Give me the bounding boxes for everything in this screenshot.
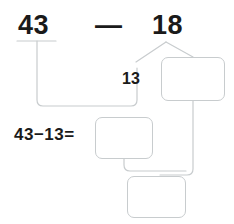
decomposed-part-left: 13 bbox=[122, 71, 140, 87]
split-branch-right bbox=[166, 42, 193, 57]
answer-box-bottom[interactable] bbox=[127, 176, 186, 218]
subtrahend-value: 18 bbox=[152, 12, 183, 39]
minus-operator-icon: — bbox=[95, 12, 123, 39]
wire-right-box-to-bottom bbox=[160, 101, 193, 175]
minuend-value: 43 bbox=[18, 12, 49, 39]
worksheet-canvas: 43 — 18 13 43−13= bbox=[0, 0, 234, 224]
answer-box-part-right[interactable] bbox=[161, 57, 225, 101]
answer-box-middle[interactable] bbox=[95, 117, 153, 159]
wire-middle-box-down bbox=[124, 159, 186, 171]
equation-label: 43−13= bbox=[14, 126, 75, 143]
